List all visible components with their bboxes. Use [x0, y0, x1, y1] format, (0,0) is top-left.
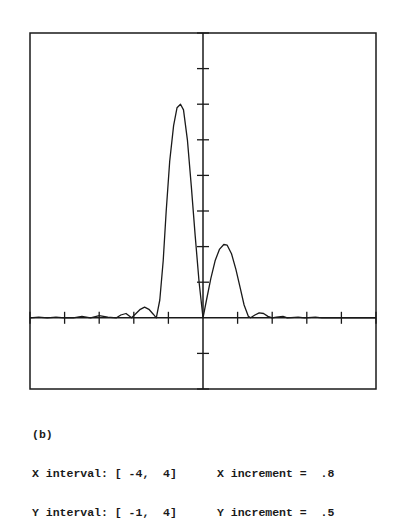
panel-label: (b) [32, 428, 334, 441]
y-increment-label: Y increment = .5 [217, 506, 334, 519]
y-interval-label: Y interval: [ -1, 4] [32, 506, 217, 519]
plot-area [0, 0, 393, 400]
x-interval-label: X interval: [ -4, 4] [32, 467, 217, 480]
x-increment-label: X increment = .8 [217, 467, 334, 480]
caption: (b) X interval: [ -4, 4] X increment = .… [32, 402, 334, 522]
